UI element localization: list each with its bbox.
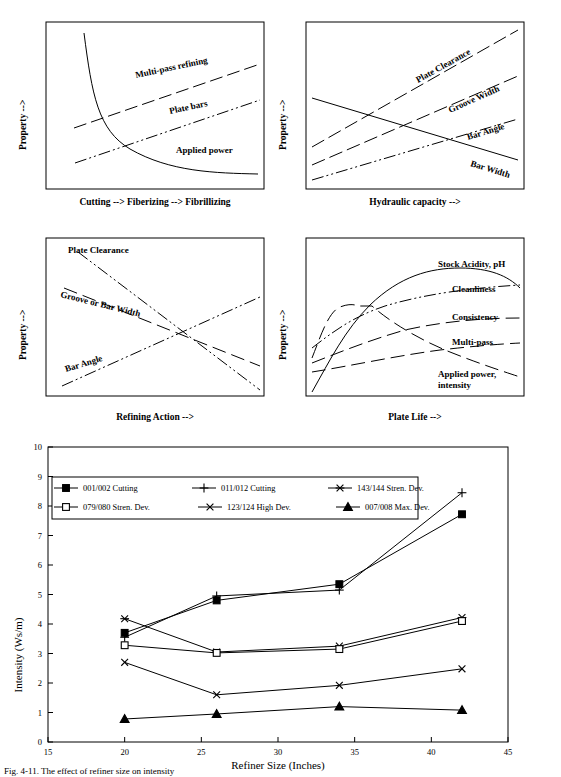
label-applied-power-intensity-line2: intensity	[438, 380, 472, 390]
series-4	[121, 659, 465, 698]
panel-bottom-left-xlabel: Refining Action -->	[116, 412, 194, 422]
panel-bottom-right-ylabel: Property -->	[278, 310, 288, 360]
y-tick-label: 5	[38, 590, 42, 600]
legend-label: 123/124 High Dev.	[227, 503, 291, 512]
label-plate-clearance: Plate Clearance	[414, 47, 472, 85]
series-5	[120, 702, 466, 722]
label-multi-pass-refining: Multi-pass refining	[134, 55, 209, 80]
curve-bar-angle-bl	[62, 297, 260, 386]
label-multi-pass: Multi-pass	[452, 337, 494, 347]
chart-ylabel: Intensity (Ws/m)	[12, 617, 25, 692]
label-plate-bars: Plate bars	[168, 98, 208, 116]
x-tick-label: 45	[504, 747, 513, 757]
panel-top-left-xlabel: Cutting --> Fiberizing --> Fibrillizing	[79, 197, 230, 207]
panel-bottom-left: Property --> Plate Clearance Groove or B…	[18, 238, 264, 422]
y-axis-ticks: 012345678910	[34, 442, 54, 747]
label-plate-clearance-bl: Plate Clearance	[68, 245, 129, 255]
y-tick-label: 10	[34, 442, 43, 452]
marker-open-square	[213, 650, 220, 657]
label-stock-acidity: Stock Acidity, pH	[438, 259, 505, 269]
legend-label: 001/002 Cutting	[83, 484, 138, 493]
y-tick-label: 0	[38, 737, 42, 747]
marker-open-square	[63, 504, 70, 511]
marker-filled-triangle	[335, 702, 344, 710]
chart-series-layer	[120, 488, 466, 722]
figure-caption: Fig. 4-11. The effect of refiner size on…	[4, 766, 175, 776]
curve-multi-pass	[312, 343, 520, 372]
label-groove-width: Groove Width	[447, 83, 501, 114]
label-applied-power: Applied power	[176, 145, 233, 155]
marker-open-square	[459, 618, 466, 625]
panel-bottom-right-xlabel: Plate Life -->	[388, 412, 441, 422]
figure-svg: Property --> Multi-pass refining Plate b…	[0, 0, 561, 777]
y-tick-label: 9	[38, 472, 42, 482]
panel-top-left-ylabel: Property -->	[18, 100, 28, 150]
marker-open-square	[121, 642, 128, 649]
legend-label: 079/080 Stren. Dev.	[83, 503, 150, 512]
x-tick-label: 40	[427, 747, 436, 757]
legend-label: 007/008 Max. Dev.	[365, 503, 430, 512]
label-bar-angle-bl: Bar Angle	[64, 353, 104, 374]
y-tick-label: 1	[38, 708, 42, 718]
marker-filled-square	[459, 511, 466, 518]
legend-item-0[interactable]: 001/002 Cutting	[54, 484, 138, 493]
y-tick-label: 8	[38, 501, 42, 511]
x-axis-ticks: 15202530354045	[44, 737, 513, 757]
series-line	[125, 662, 462, 694]
x-tick-label: 35	[350, 747, 359, 757]
x-tick-label: 25	[197, 747, 206, 757]
legend-label: 143/144 Stren. Dev.	[357, 484, 424, 493]
x-tick-label: 30	[274, 747, 283, 757]
panel-bottom-right: Property --> Stock Acidity, pH Cleanline…	[278, 238, 524, 422]
y-tick-label: 2	[38, 678, 42, 688]
panel-top-left: Property --> Multi-pass refining Plate b…	[18, 22, 264, 207]
marker-filled-square	[63, 485, 70, 492]
label-bar-angle: Bar Angle	[466, 121, 506, 142]
curve-plate-clearance-bl	[78, 252, 260, 390]
series-3	[121, 618, 465, 657]
y-tick-label: 3	[38, 649, 42, 659]
y-tick-label: 4	[38, 619, 43, 629]
legend-label: 011/012 Cutting	[221, 484, 276, 493]
panel-bottom-left-ylabel: Property -->	[18, 310, 28, 360]
label-bar-width: Bar Width	[469, 158, 511, 179]
series-0	[121, 511, 465, 636]
curve-multi-pass-refining	[74, 64, 260, 128]
intensity-vs-refiner-size-chart: 012345678910 15202530354045 Intensity (W…	[12, 442, 512, 772]
label-consistency: Consistency	[452, 312, 499, 322]
label-groove-or-bar-width: Groove or Bar Width	[60, 289, 142, 319]
figure-root: Property --> Multi-pass refining Plate b…	[0, 0, 561, 777]
y-tick-label: 6	[38, 560, 42, 570]
y-tick-label: 7	[38, 531, 42, 541]
marker-open-square	[336, 646, 343, 653]
chart-legend: 001/002 Cutting011/012 Cutting143/144 St…	[52, 477, 430, 519]
panel-top-right-xlabel: Hydraulic capacity -->	[369, 197, 460, 207]
series-line	[125, 707, 462, 719]
panel-top-right-ylabel: Property -->	[278, 100, 288, 150]
label-applied-power-intensity: Applied power,	[438, 369, 496, 379]
x-tick-label: 15	[44, 747, 53, 757]
series-line	[125, 618, 462, 653]
legend-item-3[interactable]: 079/080 Stren. Dev.	[54, 503, 150, 512]
panel-top-right: Property --> Plate Clearance Groove Widt…	[278, 22, 524, 207]
x-tick-label: 20	[120, 747, 129, 757]
label-cleanliness: Cleanliness	[452, 284, 496, 294]
chart-xlabel: Refiner Size (Inches)	[231, 759, 325, 772]
